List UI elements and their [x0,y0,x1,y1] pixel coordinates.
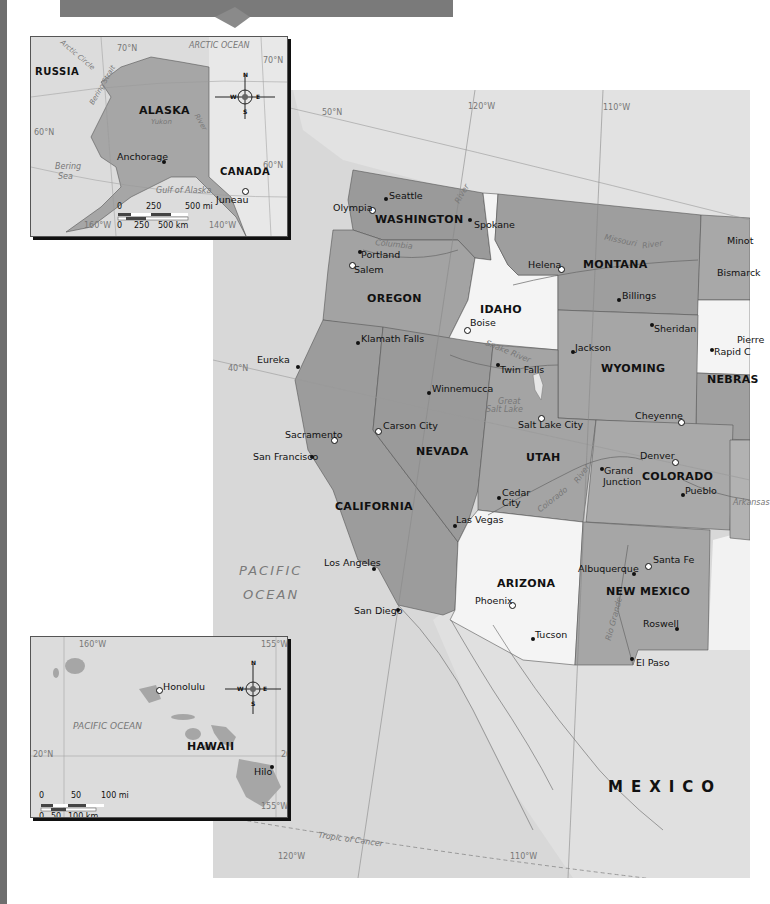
capital-marker-carson-city [375,428,382,435]
city-marker-spokane [468,218,472,222]
graticule-label-140w: 140°W [209,222,236,230]
state-label-california: CALIFORNIA [335,501,413,512]
compass-w-label: W [237,686,244,692]
pacific-ocean-label-2: OCEAN [243,588,299,601]
main-map [213,90,750,878]
capital-marker-honolulu [156,687,163,694]
city-label-grand-junction-1: Grand [604,466,633,476]
capital-marker-santa-fe [645,563,652,570]
city-label-pueblo: Pueblo [685,486,717,496]
compass-s-label: S [251,701,255,707]
city-label-minot: Minot [727,236,753,246]
city-label-spokane: Spokane [474,220,515,230]
city-label-honolulu: Honolulu [163,682,205,692]
graticule-label-120w-top: 120°W [468,103,495,111]
state-label-oregon: OREGON [367,293,422,304]
city-label-san-diego: San Diego [354,606,403,616]
compass-e-label: E [256,94,260,100]
compass-s-label: S [243,109,247,115]
state-label-washington: WASHINGTON [375,214,463,225]
city-label-hilo: Hilo [254,767,272,777]
water-label-pacific-ocean: PACIFIC OCEAN [73,722,142,731]
graticule-label-20n-right: 20°N [281,751,288,759]
compass-n-label: N [243,72,248,78]
graticule-label-155w-top: 155°W [261,641,288,649]
city-label-grand-junction-2: Junction [603,477,641,487]
city-label-klamath-falls: Klamath Falls [361,334,424,344]
scale-km-250: 250 [134,222,149,230]
alaska-inset: RUSSIA CANADA ALASKA ARCTIC OCEAN Bering… [30,36,288,237]
city-label-salt-lake-city: Salt Lake City [518,420,583,430]
city-label-cedar-city-2: City [502,498,521,508]
city-label-pierre: Pierre [737,335,764,345]
city-marker-cedar-city [497,496,501,500]
graticule-label-110w-bottom: 110°W [510,853,537,861]
state-label-new-mexico: NEW MEXICO [606,586,690,597]
water-label-salt-lake: Salt Lake [486,406,523,414]
graticule-label-160w: 160°W [84,222,111,230]
city-label-rapid-city: Rapid C [714,347,751,357]
city-label-albuquerque: Albuquerque [578,564,639,574]
city-label-denver: Denver [640,451,675,461]
scale-km-0: 0 [117,222,122,230]
graticule-label-40n: 40°N [228,365,248,373]
scale-km-50: 50 [51,813,61,818]
compass-e-label: E [263,686,267,692]
state-label-idaho: IDAHO [480,304,522,315]
graticule-label-155w-bottom: 155°W [261,803,288,811]
city-label-eureka: Eureka [257,355,290,365]
state-label-wyoming: WYOMING [601,363,665,374]
pacific-ocean-label-1: PACIFIC [239,564,302,577]
city-marker-seattle [384,197,388,201]
scale-km-100: 100 km [68,813,98,818]
state-label-hawaii: HAWAII [187,741,234,752]
city-label-phoenix: Phoenix [475,596,513,606]
top-banner [60,0,453,17]
graticule-label-50n: 50°N [322,109,342,117]
state-label-colorado: COLORADO [642,471,713,482]
city-label-juneau: Juneau [216,195,249,205]
city-label-sacramento: Sacramento [285,430,342,440]
water-label-arctic-ocean: ARCTIC OCEAN [189,42,249,50]
city-marker-el-paso [630,657,634,661]
city-label-carson-city: Carson City [383,421,438,431]
city-label-jackson: Jackson [575,343,611,353]
state-label-nevada: NEVADA [416,446,468,457]
city-label-roswell: Roswell [643,619,679,629]
city-label-salem: Salem [354,265,384,275]
water-label-yukon: Yukon [151,119,172,126]
water-label-arkansas: Arkansas [733,499,770,507]
state-label-alaska: ALASKA [139,105,190,116]
city-label-anchorage: Anchorage [117,152,168,162]
city-label-boise: Boise [470,318,496,328]
city-label-el-paso: El Paso [636,658,670,668]
graticule-label-160w: 160°W [79,641,106,649]
city-marker-eureka [296,365,300,369]
city-marker-klamath-falls [356,341,360,345]
water-label-gulf-of-alaska: Gulf of Alaska [156,187,211,195]
scale-mi-500: 500 mi [185,203,213,211]
city-label-seattle: Seattle [389,191,423,201]
graticule-label-60n-right: 60°N [263,162,283,170]
city-marker-billings [617,298,621,302]
scale-mi-100: 100 mi [101,792,129,800]
state-label-arizona: ARIZONA [497,578,555,589]
country-label-russia: RUSSIA [35,67,79,77]
capital-marker-boise [464,327,471,334]
state-label-utah: UTAH [526,452,561,463]
city-label-sheridan: Sheridan [654,324,696,334]
scale-km-0: 0 [39,813,44,818]
graticule-label-70n-left: 70°N [117,45,137,53]
graticule-label-20n-left: 20°N [33,751,53,759]
state-label-nebraska: NEBRAS [707,374,759,385]
city-label-bismarck: Bismarck [717,268,761,278]
city-label-santa-fe: Santa Fe [653,555,694,565]
city-label-los-angeles: Los Angeles [324,558,381,568]
city-label-las-vegas: Las Vegas [456,515,504,525]
city-label-billings: Billings [622,291,656,301]
scale-mi-50: 50 [71,792,81,800]
city-label-portland: Portland [361,250,400,260]
city-label-winnemucca: Winnemucca [432,384,493,394]
graticule-label-110w-top: 110°W [603,104,630,112]
water-label-sea: Sea [58,173,73,181]
